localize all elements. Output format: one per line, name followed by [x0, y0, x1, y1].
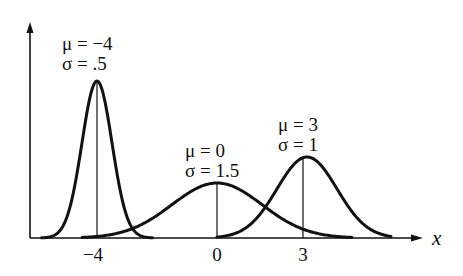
label-b-sigma: σ = 1.5 [185, 161, 239, 181]
x-axis-label: x [432, 226, 441, 251]
label-c-mu: μ = 3 [278, 115, 318, 135]
label-a-sigma: σ = .5 [62, 54, 113, 74]
label-b-mu: μ = 0 [185, 141, 239, 161]
y-axis-arrow-icon [27, 22, 34, 33]
x-tick-3: 3 [298, 244, 308, 266]
x-tick-neg4: −4 [83, 244, 103, 266]
curve-mu-3-sigma-1 [217, 157, 391, 237]
label-c-sigma: σ = 1 [278, 135, 318, 155]
label-curve-b: μ = 0 σ = 1.5 [185, 141, 239, 181]
label-a-mu: μ = −4 [62, 34, 113, 54]
x-axis-arrow-icon [411, 235, 423, 242]
label-curve-a: μ = −4 σ = .5 [62, 34, 113, 74]
label-curve-c: μ = 3 σ = 1 [278, 115, 318, 155]
x-tick-0: 0 [212, 244, 222, 266]
